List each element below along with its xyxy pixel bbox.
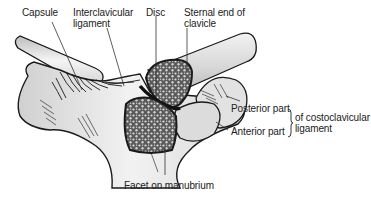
label-disc: Disc	[146, 7, 165, 18]
sternoclavicular-joint-diagram	[0, 0, 371, 197]
label-interclavicular-2: ligament	[73, 18, 110, 29]
label-facet-on-manubrium: Facet on manubrium	[124, 180, 214, 191]
label-sternal-end-1: Sternal end of	[184, 7, 245, 18]
label-sternal-end-2: clavicle	[184, 18, 216, 29]
label-interclavicular-1: Interclavicular	[73, 7, 133, 18]
label-costoclavicular-1: of costoclavicular	[295, 112, 370, 123]
label-costoclavicular-2: ligament	[295, 123, 332, 134]
interclavicular-leader	[107, 28, 124, 86]
label-posterior-part: Posterior part	[231, 103, 290, 114]
label-anterior-part: Anterior part	[231, 126, 285, 137]
label-capsule: Capsule	[22, 7, 58, 18]
